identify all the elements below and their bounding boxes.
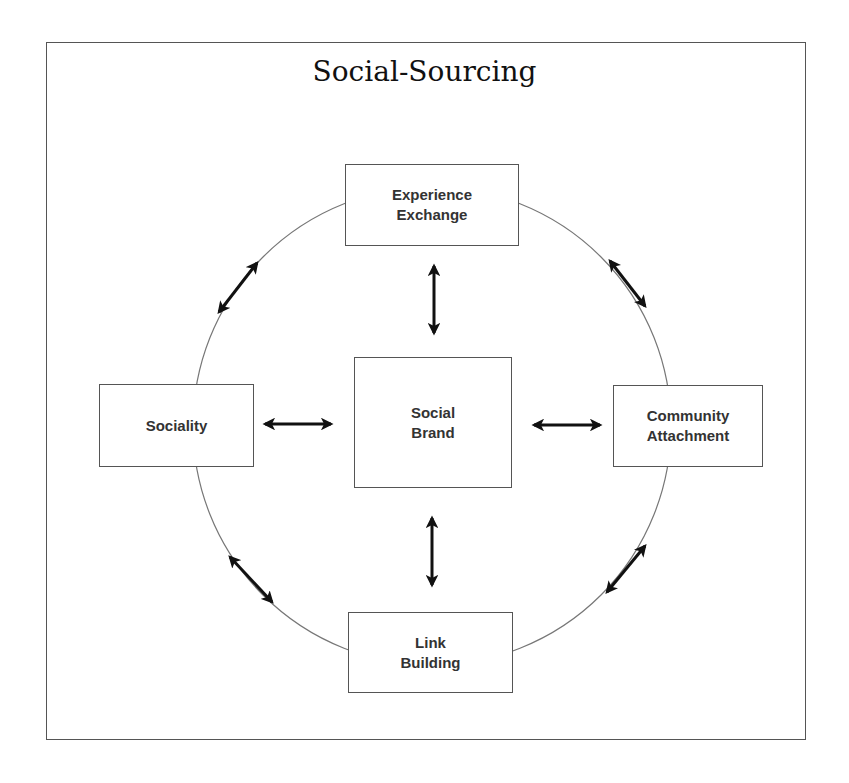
arrow-top-right-arc xyxy=(610,261,645,306)
node-experience-exchange-label: Experience Exchange xyxy=(392,185,472,225)
node-social-brand: Social Brand xyxy=(354,357,512,488)
arrow-bottom-right-arc xyxy=(607,546,645,592)
node-sociality: Sociality xyxy=(99,384,254,467)
arrow-top-left-arc xyxy=(219,263,257,312)
node-social-brand-label: Social Brand xyxy=(411,403,455,443)
node-community-attachment: Community Attachment xyxy=(613,385,763,467)
node-experience-exchange: Experience Exchange xyxy=(345,164,519,246)
node-sociality-label: Sociality xyxy=(146,416,208,436)
node-community-attachment-label: Community Attachment xyxy=(647,406,730,446)
arrow-bottom-left-arc xyxy=(230,557,272,602)
node-link-building-label: Link Building xyxy=(401,633,461,673)
node-link-building: Link Building xyxy=(348,612,513,693)
